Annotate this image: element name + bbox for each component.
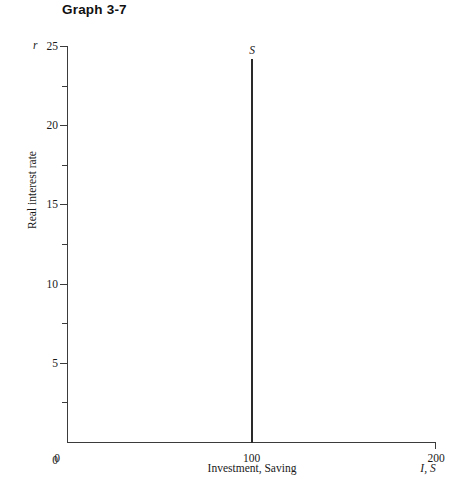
y-tick-label-10: 10 <box>47 278 59 290</box>
x-tick-label-200: 200 <box>427 452 444 464</box>
saving-curve-line <box>251 59 253 443</box>
y-tick-label-20: 20 <box>47 119 59 131</box>
y-tick-5 <box>60 363 67 364</box>
x-tick-label-0: 0 <box>54 452 60 464</box>
y-tick-minor-2-5 <box>62 402 67 403</box>
graph-figure: Graph 3-7 r Real interest rate Investmen… <box>0 0 463 493</box>
y-tick-minor-17-5 <box>62 165 67 166</box>
plot-area: 25 20 15 10 5 0 0 100 200 S <box>67 46 436 443</box>
y-tick-minor-12-5 <box>62 244 67 245</box>
y-tick-label-5: 5 <box>52 357 58 369</box>
saving-curve-label: S <box>249 44 255 56</box>
y-axis-symbol: r <box>33 39 37 51</box>
y-tick-15 <box>60 204 67 205</box>
chart-title: Graph 3-7 <box>62 2 127 17</box>
y-tick-10 <box>60 284 67 285</box>
x-tick-label-100: 100 <box>243 452 260 464</box>
y-tick-label-15: 15 <box>47 198 59 210</box>
x-tick-200 <box>435 443 436 449</box>
y-tick-minor-22-5 <box>62 86 67 87</box>
y-axis-line <box>67 46 68 443</box>
y-tick-25 <box>60 46 67 47</box>
y-tick-minor-7-5 <box>62 323 67 324</box>
y-tick-label-25: 25 <box>47 40 59 52</box>
y-tick-20 <box>60 125 67 126</box>
y-axis-title: Real interest rate <box>26 151 38 229</box>
